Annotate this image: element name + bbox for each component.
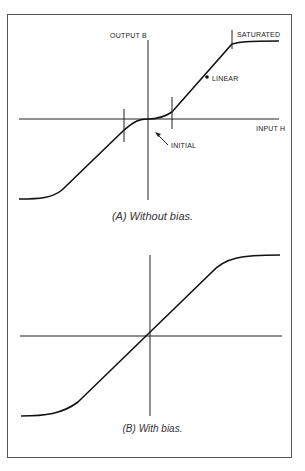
panel-a-caption: (A) Without bias.	[0, 210, 305, 222]
linear-label: LINEAR	[212, 75, 239, 82]
magnetization-curves: OUTPUT B SATURATED LINEAR INPUT H INITIA…	[0, 0, 305, 471]
input-h-label: INPUT H	[256, 125, 285, 132]
initial-label: INITIAL	[171, 142, 196, 149]
output-b-label: OUTPUT B	[110, 32, 147, 39]
panel-b-caption: (B) With bias.	[0, 423, 305, 434]
panel-a-curve	[19, 41, 279, 199]
saturated-label: SATURATED	[237, 31, 280, 38]
